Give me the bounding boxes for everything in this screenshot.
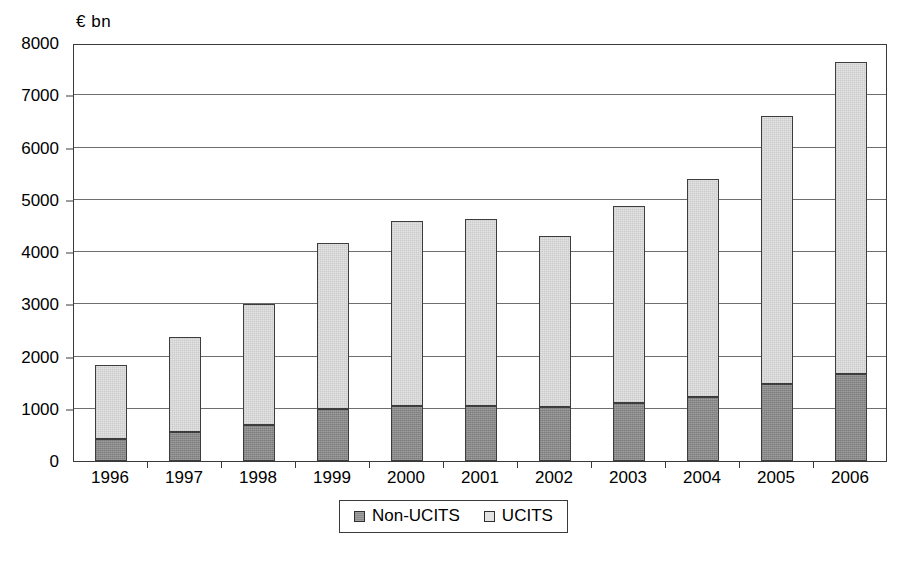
bar-segment-non-ucits[interactable]: [687, 397, 719, 461]
gridline: [74, 94, 886, 95]
bar-stack[interactable]: [243, 304, 275, 461]
bar-segment-ucits[interactable]: [391, 221, 423, 406]
x-axis-tick-label: 1999: [313, 468, 351, 488]
bar-segment-ucits[interactable]: [539, 236, 571, 407]
x-axis-tick-label: 2003: [609, 468, 647, 488]
legend-label-non-ucits: Non-UCITS: [372, 506, 460, 526]
x-axis-tick-label: 1996: [91, 468, 129, 488]
bar-stack[interactable]: [317, 243, 349, 461]
bar-segment-non-ucits[interactable]: [243, 425, 275, 461]
bar-segment-non-ucits[interactable]: [169, 432, 201, 461]
chart-legend: Non-UCITS UCITS: [339, 500, 568, 533]
y-axis-tick-label: 0: [50, 452, 59, 472]
bar-segment-ucits[interactable]: [687, 179, 719, 397]
legend-item-non-ucits[interactable]: Non-UCITS: [354, 506, 460, 526]
legend-label-ucits: UCITS: [502, 506, 553, 526]
y-axis-tick-mark: [66, 357, 73, 358]
x-axis-tick-label: 1998: [239, 468, 277, 488]
bar-stack[interactable]: [95, 365, 127, 461]
y-axis-tick-mark: [66, 305, 73, 306]
x-axis-tick-label: 2004: [683, 468, 721, 488]
x-axis-tick-labels: 1996199719981999200020012002200320042005…: [73, 468, 887, 494]
y-axis-tick-labels: 010002000300040005000600070008000: [0, 44, 66, 462]
y-axis-unit-label: € bn: [76, 12, 111, 32]
y-axis-tick-label: 2000: [21, 348, 59, 368]
bar-segment-ucits[interactable]: [465, 219, 497, 406]
plot-area: [73, 44, 887, 462]
bar-segment-ucits[interactable]: [613, 206, 645, 403]
legend-swatch-non-ucits-icon: [354, 511, 365, 522]
x-axis-tick-label: 2005: [757, 468, 795, 488]
bar-segment-ucits[interactable]: [761, 116, 793, 384]
bar-segment-ucits[interactable]: [835, 62, 867, 373]
bar-stack[interactable]: [465, 219, 497, 461]
stacked-bar-chart: € bn 010002000300040005000600070008000 1…: [0, 0, 902, 561]
y-axis-tick-label: 8000: [21, 34, 59, 54]
legend-swatch-ucits-icon: [484, 511, 495, 522]
bar-segment-non-ucits[interactable]: [539, 407, 571, 461]
bar-stack[interactable]: [835, 62, 867, 461]
bar-segment-ucits[interactable]: [243, 304, 275, 426]
y-axis-tick-mark: [66, 409, 73, 410]
bar-segment-non-ucits[interactable]: [613, 403, 645, 461]
y-axis-tick-label: 5000: [21, 191, 59, 211]
legend-item-ucits[interactable]: UCITS: [484, 506, 553, 526]
bar-segment-non-ucits[interactable]: [465, 406, 497, 461]
y-axis-tick-label: 3000: [21, 295, 59, 315]
bar-segment-ucits[interactable]: [169, 337, 201, 432]
bar-stack[interactable]: [687, 179, 719, 461]
bar-stack[interactable]: [613, 206, 645, 461]
bar-segment-non-ucits[interactable]: [835, 374, 867, 461]
x-axis-tick-label: 2002: [535, 468, 573, 488]
x-axis-tick-label: 2000: [387, 468, 425, 488]
y-axis-tick-mark: [66, 253, 73, 254]
bar-segment-ucits[interactable]: [95, 365, 127, 439]
y-axis-tick-mark: [66, 200, 73, 201]
bar-stack[interactable]: [539, 236, 571, 461]
bar-stack[interactable]: [761, 116, 793, 461]
plot-inner: [74, 45, 886, 461]
bar-stack[interactable]: [391, 221, 423, 461]
y-axis-tick-label: 6000: [21, 139, 59, 159]
y-axis-tick-mark: [66, 96, 73, 97]
bar-segment-non-ucits[interactable]: [95, 439, 127, 461]
bar-segment-non-ucits[interactable]: [391, 406, 423, 461]
y-axis-tick-label: 1000: [21, 400, 59, 420]
bar-segment-ucits[interactable]: [317, 243, 349, 409]
y-axis-tick-mark: [66, 148, 73, 149]
x-axis-tick-label: 2001: [461, 468, 499, 488]
x-axis-tick-label: 2006: [831, 468, 869, 488]
y-axis-tick-label: 7000: [21, 86, 59, 106]
bar-segment-non-ucits[interactable]: [761, 384, 793, 461]
x-axis-tick-label: 1997: [165, 468, 203, 488]
bar-stack[interactable]: [169, 337, 201, 461]
y-axis-tick-label: 4000: [21, 243, 59, 263]
bar-segment-non-ucits[interactable]: [317, 409, 349, 461]
